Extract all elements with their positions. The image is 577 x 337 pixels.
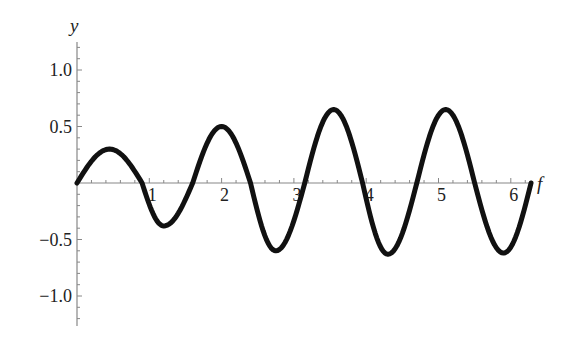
line-chart: 123456 −1.0−0.50.51.0 f y <box>0 0 577 337</box>
x-tick-label: 6 <box>509 185 518 205</box>
data-series-line <box>77 110 531 255</box>
y-tick-label: 1.0 <box>50 60 73 80</box>
x-tick-label: 5 <box>437 185 446 205</box>
x-axis-label: f <box>537 173 545 194</box>
y-tick-label: −0.5 <box>39 230 72 250</box>
x-ticks: 123456 <box>91 178 525 205</box>
y-tick-label: −1.0 <box>39 286 72 306</box>
x-tick-label: 2 <box>220 185 229 205</box>
y-axis-label: y <box>68 15 79 36</box>
y-tick-label: 0.5 <box>50 117 73 137</box>
